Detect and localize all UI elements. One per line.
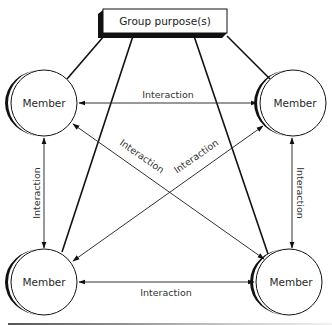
member-label: Member (22, 97, 66, 109)
interaction-label-left: Interaction (31, 167, 42, 219)
group-purpose-box: Group purpose(s) (98, 9, 227, 38)
connector-top-right (227, 36, 270, 79)
connector-top-left (67, 36, 104, 79)
arrow-diag-tl-br (73, 124, 264, 259)
arrow-diag-bl-tr (73, 126, 263, 261)
group-purpose-label: Group purpose(s) (119, 15, 211, 27)
group-interaction-diagram: Group purpose(s) Interaction Interaction… (0, 0, 332, 325)
member-label: Member (269, 276, 313, 288)
interaction-label-bottom: Interaction (140, 287, 192, 298)
interaction-label-diag-bl-tr: Interaction (172, 137, 221, 176)
member-bottom-left: Member (5, 249, 77, 315)
purpose-connectors (62, 36, 270, 254)
interaction-label-diag-tl-br: Interaction (118, 137, 167, 176)
interaction-label-right: Interaction (295, 167, 306, 219)
member-label: Member (22, 276, 66, 288)
member-top-right: Member (254, 70, 326, 136)
member-label: Member (273, 97, 317, 109)
member-bottom-right: Member (250, 249, 322, 315)
member-top-left: Member (5, 70, 77, 136)
interaction-label-top: Interaction (142, 89, 194, 100)
